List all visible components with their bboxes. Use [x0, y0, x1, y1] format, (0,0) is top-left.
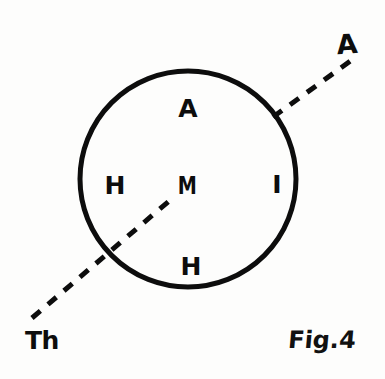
dashed-axis-lower-segment: [32, 196, 175, 318]
interior-label-center: M: [178, 174, 196, 198]
figure-4-diagram: A H M I H Th A Fig.4: [0, 0, 385, 379]
interior-label-bottom: H: [181, 254, 202, 279]
axis-label-th: Th: [25, 328, 59, 353]
interior-label-left: H: [105, 173, 126, 198]
axis-label-a: A: [336, 30, 359, 58]
interior-label-top: A: [178, 96, 197, 121]
dashed-axis-upper-segment: [273, 57, 356, 117]
figure-caption: Fig.4: [287, 326, 357, 354]
interior-label-right: I: [272, 172, 281, 197]
